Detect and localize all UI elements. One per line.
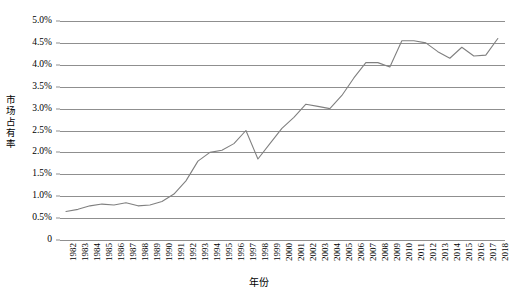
x-tick-label: 2018	[501, 243, 510, 261]
x-tick-label: 1984	[93, 243, 102, 261]
x-tick-label: 2012	[429, 243, 438, 261]
x-tick-label: 1996	[237, 243, 246, 261]
y-axis-labels: 00.5%1.0%1.5%2.0%2.5%3.0%3.5%4.0%4.5%5.0…	[0, 0, 58, 262]
x-tick-label: 1992	[189, 243, 198, 261]
y-tick-label: 3.5%	[32, 82, 52, 92]
x-tick-label: 2003	[321, 243, 330, 261]
x-tick-label: 2014	[453, 243, 462, 261]
x-tick-label: 1987	[129, 243, 138, 261]
x-tick-label: 2009	[393, 243, 402, 261]
x-tick-label: 2007	[369, 243, 378, 261]
x-tick-label: 2000	[285, 243, 294, 261]
x-tick-label: 1991	[177, 243, 186, 261]
x-tick-label: 1999	[273, 243, 282, 261]
y-tick-label: 0	[47, 235, 52, 245]
x-tick-label: 2004	[333, 243, 342, 261]
x-tick-label: 1993	[201, 243, 210, 261]
market-share-line-chart: 市场占有率 00.5%1.0%1.5%2.0%2.5%3.0%3.5%4.0%4…	[0, 0, 517, 296]
y-tick-label: 1.0%	[32, 191, 52, 201]
x-tick-label: 1986	[117, 243, 126, 261]
x-tick-label: 2001	[297, 243, 306, 261]
data-series-line	[60, 21, 505, 240]
x-tick-label: 2015	[465, 243, 474, 261]
x-tick-label: 2002	[309, 243, 318, 261]
x-tick-label: 2011	[417, 243, 426, 261]
y-tick-label: 2.0%	[32, 148, 52, 158]
x-tick-label: 1988	[141, 243, 150, 261]
gridline-0	[60, 240, 505, 241]
x-tick-label: 2016	[477, 243, 486, 261]
x-tick-label: 1998	[261, 243, 270, 261]
y-tick-label: 2.5%	[32, 126, 52, 136]
y-tick-label: 5.0%	[32, 16, 52, 26]
x-tick-label: 2005	[345, 243, 354, 261]
y-tick-label: 4.0%	[32, 60, 52, 70]
y-tick-label: 4.5%	[32, 38, 52, 48]
series-polyline	[66, 39, 498, 212]
x-tick-label: 1990	[165, 243, 174, 261]
y-tick-label: 1.5%	[32, 170, 52, 180]
x-tick-label: 1997	[249, 243, 258, 261]
y-tick-label: 3.0%	[32, 104, 52, 114]
x-tick-label: 2010	[405, 243, 414, 261]
x-tick-label: 2013	[441, 243, 450, 261]
plot-area	[60, 21, 505, 240]
x-tick-label: 1983	[81, 243, 90, 261]
x-tick-label: 1995	[225, 243, 234, 261]
x-tick-label: 1982	[69, 243, 78, 261]
x-tick-label: 2008	[381, 243, 390, 261]
y-tick-label: 0.5%	[32, 213, 52, 223]
x-tick-label: 1994	[213, 243, 222, 261]
x-axis-title: 年份	[0, 277, 517, 288]
x-tick-label: 2017	[489, 243, 498, 261]
x-tick-label: 1985	[105, 243, 114, 261]
x-tick-label: 1989	[153, 243, 162, 261]
x-tick-label: 2006	[357, 243, 366, 261]
